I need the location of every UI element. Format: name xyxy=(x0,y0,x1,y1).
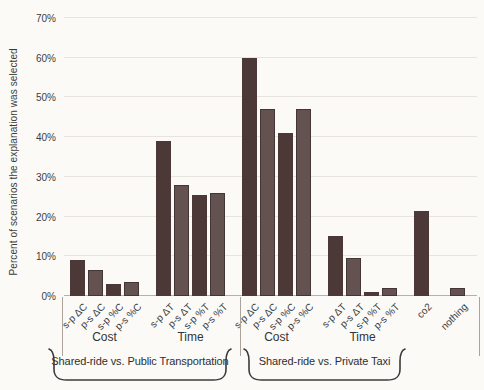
bar xyxy=(382,288,397,296)
category-axis-separator xyxy=(479,297,480,356)
bar-cluster: s-p ΔCp-s ΔCs-p %Cp-s %CCost xyxy=(70,18,139,296)
bar xyxy=(210,193,225,296)
bar xyxy=(260,109,275,296)
bar-column: s-p ΔC xyxy=(70,18,85,296)
bar xyxy=(156,141,171,296)
bar-column: s-p %C xyxy=(278,18,293,296)
bar-chart-figure: Percent of scenarios the explanation was… xyxy=(0,0,484,390)
bar-column: p-s ΔC xyxy=(260,18,275,296)
bar xyxy=(328,236,343,296)
bar-column: s-p ΔC xyxy=(242,18,257,296)
bar xyxy=(192,195,207,296)
bar-column: p-s %T xyxy=(382,18,397,296)
bar-column: s-p ΔT xyxy=(156,18,171,296)
y-tick-label: 70% xyxy=(0,13,56,24)
bar xyxy=(174,185,189,296)
bar xyxy=(364,292,379,296)
bar xyxy=(106,284,121,296)
bar xyxy=(414,211,429,296)
bar xyxy=(450,288,465,296)
bar xyxy=(70,260,85,296)
y-tick-label: 20% xyxy=(0,211,56,222)
bar-column: s-p %T xyxy=(192,18,207,296)
bar-column: co2 xyxy=(414,18,429,296)
y-tick-label: 40% xyxy=(0,132,56,143)
bracket-curve-icon xyxy=(241,346,408,388)
bar-column: s-p %T xyxy=(364,18,379,296)
bar-cluster: nothing xyxy=(450,18,465,296)
cluster-label: Time xyxy=(349,330,375,344)
bar xyxy=(124,282,139,296)
cluster-label: Cost xyxy=(92,330,117,344)
bar-column: nothing xyxy=(450,18,465,296)
bar-column: p-s ΔC xyxy=(88,18,103,296)
bars-row: s-p ΔCp-s ΔCs-p %Cp-s %CCosts-p ΔTp-s ΔT… xyxy=(70,18,465,296)
bar-cluster: s-p ΔCp-s ΔCs-p %Cp-s %CCost xyxy=(242,18,311,296)
bar-column: p-s %C xyxy=(296,18,311,296)
bar xyxy=(242,58,257,296)
bar-column: s-p %C xyxy=(106,18,121,296)
group-bracket-label: Shared-ride vs. Public Transportation xyxy=(46,355,234,367)
bracket-curve-icon xyxy=(46,346,234,388)
plot-area: s-p ΔCp-s ΔCs-p %Cp-s %CCosts-p ΔTp-s ΔT… xyxy=(64,18,477,296)
bar-column: p-s %C xyxy=(124,18,139,296)
group-bracket: Shared-ride vs. Public Transportation xyxy=(46,346,234,388)
bar-column: p-s ΔT xyxy=(174,18,189,296)
cluster-label: Time xyxy=(177,330,203,344)
bar xyxy=(278,133,293,296)
y-tick-label: 10% xyxy=(0,251,56,262)
x-tick-label: co2 xyxy=(415,301,434,320)
bar-cluster: s-p ΔTp-s ΔTs-p %Tp-s %TTime xyxy=(328,18,397,296)
group-bracket: Shared-ride vs. Private Taxi xyxy=(241,346,408,388)
y-axis-title: Percent of scenarios the explanation was… xyxy=(8,56,19,276)
y-tick-label: 60% xyxy=(0,52,56,63)
y-tick-label: 50% xyxy=(0,92,56,103)
group-bracket-label: Shared-ride vs. Private Taxi xyxy=(241,355,408,367)
bar-cluster: s-p ΔTp-s ΔTs-p %Tp-s %TTime xyxy=(156,18,225,296)
bar xyxy=(346,258,361,296)
bar-column: p-s ΔT xyxy=(346,18,361,296)
bar-column: s-p ΔT xyxy=(328,18,343,296)
bar xyxy=(296,109,311,296)
cluster-label: Cost xyxy=(264,330,289,344)
y-tick-label: 0% xyxy=(0,291,56,302)
bar-column: p-s %T xyxy=(210,18,225,296)
bar-cluster: co2 xyxy=(414,18,429,296)
x-tick-label: nothing xyxy=(439,301,470,332)
y-tick-label: 30% xyxy=(0,171,56,182)
bar xyxy=(88,270,103,296)
